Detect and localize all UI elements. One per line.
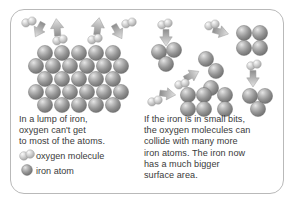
cluster-bottom-left <box>180 87 211 116</box>
arrow-down-right <box>247 70 260 87</box>
cluster-top-right <box>236 25 267 55</box>
cluster-bottom-right <box>242 88 272 116</box>
small-bits-of-iron-panel <box>148 19 273 117</box>
oxygen-molecule <box>148 96 163 106</box>
oxygen-molecule <box>158 19 173 29</box>
caption-lump-of-iron: In a lump of iron, oxygen can't get to m… <box>19 114 141 148</box>
arrow-bounce-left <box>50 18 65 36</box>
legend-swatch-oxygen-molecule <box>20 150 35 160</box>
cluster-top-left <box>151 42 181 71</box>
lump-of-iron-panel <box>22 17 137 113</box>
cluster-bottom-middle <box>217 87 232 116</box>
oxygen-molecule <box>22 17 37 27</box>
cluster-middle <box>198 51 223 78</box>
legend-swatch-iron-atom <box>22 165 33 176</box>
arrow-bounce-right <box>90 17 105 36</box>
oxygen-molecule <box>247 60 262 70</box>
caption-small-bits: If the iron is in small bits, the oxygen… <box>144 114 279 181</box>
legend-label-iron-atom: iron atom <box>36 166 74 177</box>
oxygen-molecule <box>88 34 103 44</box>
oxygen-molecule <box>122 18 137 28</box>
iron-lattice <box>28 45 128 112</box>
legend-label-oxygen-molecule: oxygen molecule <box>36 151 104 162</box>
figure-root: In a lump of iron, oxygen can't get to m… <box>0 0 297 205</box>
